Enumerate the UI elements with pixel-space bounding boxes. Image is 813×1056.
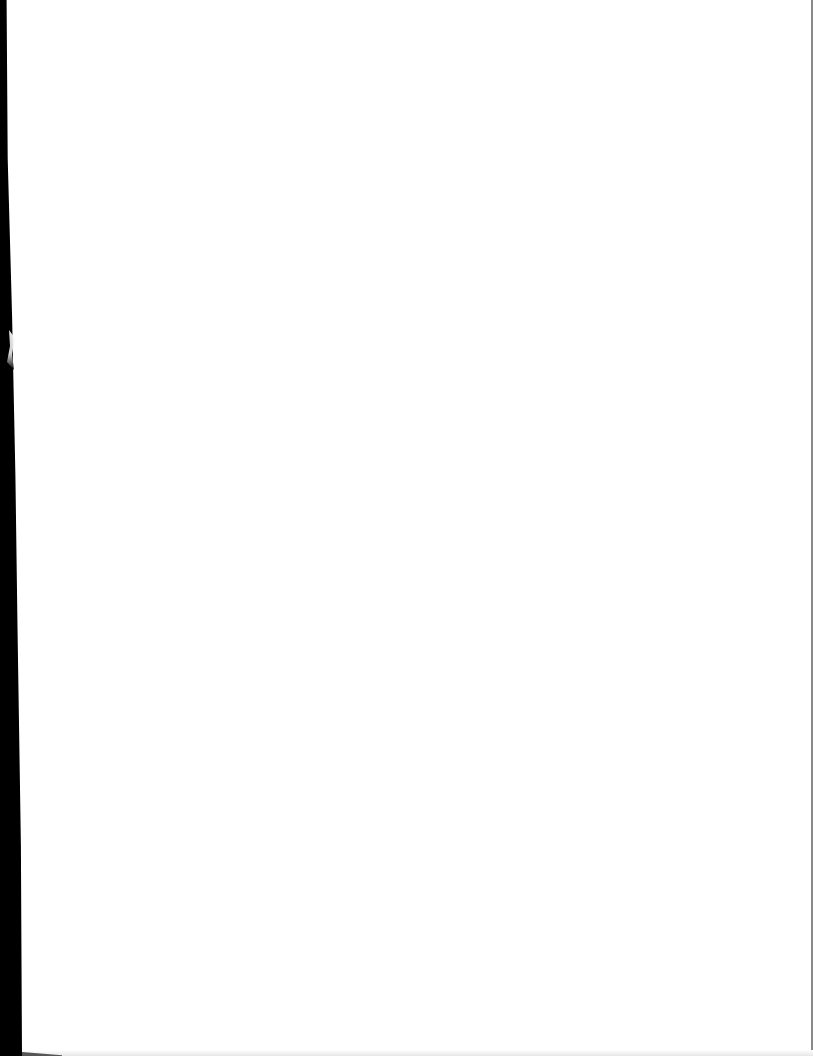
blank-scanned-page xyxy=(0,0,813,1056)
scan-shadow-left-edge xyxy=(0,0,22,1056)
page-border-bottom xyxy=(22,1050,813,1056)
